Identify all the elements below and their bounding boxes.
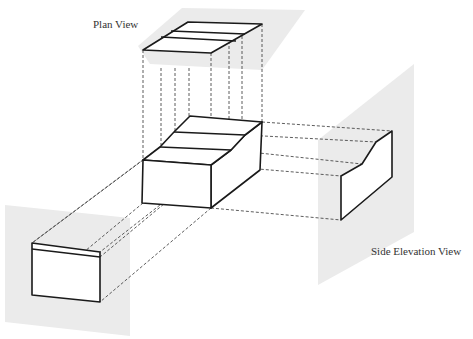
isometric-object — [142, 116, 262, 208]
front-view-shape — [32, 243, 100, 302]
projection-diagram — [0, 0, 473, 339]
side-elevation-view-label: Side Elevation View — [371, 245, 461, 257]
plan-view-label: Plan View — [93, 18, 138, 30]
